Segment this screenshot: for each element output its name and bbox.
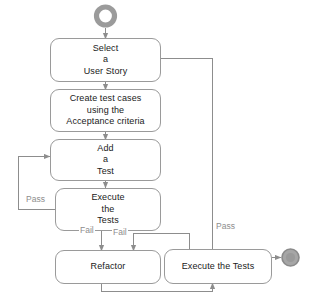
edge-label-fail-right: Fail — [112, 228, 128, 237]
edge-label-pass-right: Pass — [215, 222, 236, 231]
node-line: Tests — [91, 215, 124, 227]
node-line: User Story — [84, 66, 128, 78]
node-select-a-user-story[interactable]: Select a User Story — [50, 38, 161, 82]
edge-label-pass-left: Pass — [25, 195, 46, 204]
node-line: using the — [66, 105, 144, 117]
edge-label-fail-left: Fail — [79, 226, 95, 235]
start-node-glyph — [97, 7, 115, 25]
node-line: Add — [97, 143, 114, 155]
node-line: the — [91, 204, 124, 216]
activity-diagram: Select a User Story Create test cases us… — [0, 0, 313, 305]
node-line: Refactor — [91, 261, 126, 273]
end-node-glyph — [282, 249, 299, 266]
node-add-a-test[interactable]: Add a Test — [50, 139, 161, 181]
node-execute-the-tests[interactable]: Execute the Tests — [55, 188, 161, 231]
edge-refactor-to-execute-final — [102, 283, 213, 292]
node-refactor[interactable]: Refactor — [55, 250, 161, 284]
node-execute-the-tests-final[interactable]: Execute the Tests — [164, 249, 272, 284]
node-line: Create test cases — [66, 93, 144, 105]
node-create-test-cases[interactable]: Create test cases using the Acceptance c… — [50, 89, 161, 132]
node-line: Select — [84, 43, 128, 55]
node-line: Acceptance criteria — [66, 116, 144, 128]
node-line: a — [84, 54, 128, 66]
node-line: Execute — [91, 192, 124, 204]
node-line: a — [97, 154, 114, 166]
node-line: Test — [97, 166, 114, 178]
node-line: Execute the Tests — [182, 261, 255, 273]
edge-pass-to-select — [154, 59, 213, 250]
